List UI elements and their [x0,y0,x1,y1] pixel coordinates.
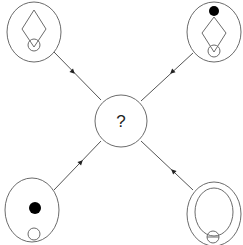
small-circle-icon [28,228,40,240]
edge-bottom-right-to-center [141,141,193,190]
inner-ellipse [195,188,233,236]
diamond-icon [22,10,46,47]
small-circle-icon [208,45,220,57]
node-bottom-left [5,178,59,242]
black-dot-icon [209,6,219,16]
diamond-icon [202,17,226,52]
edge-top-left-to-center [54,52,101,100]
edge-top-right-to-center [141,53,193,101]
node-bottom-right [187,182,241,245]
question-mark-label: ? [116,112,125,131]
node-top-left [7,2,61,62]
black-dot-icon [29,202,41,214]
node-top-right [187,2,241,62]
small-circle-icon [28,39,40,51]
node-outer-ellipse [7,2,61,62]
diagram-canvas: ? [0,0,243,245]
center-node: ? [95,95,147,147]
edge-bottom-left-to-center [54,141,101,190]
